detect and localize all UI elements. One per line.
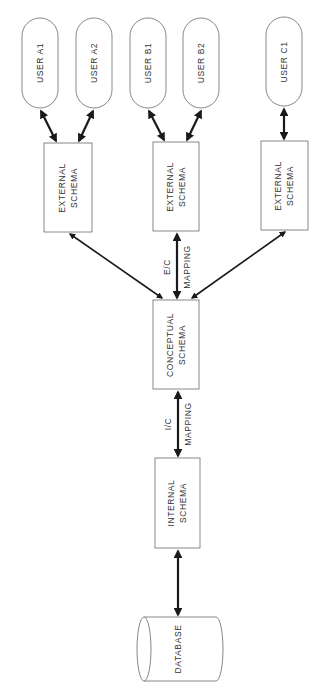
external-schema-c-line1: EXTERNAL: [273, 161, 283, 211]
architecture-diagram: USER A1 USER A2 USER B1 USER B2 USER C1 …: [0, 0, 321, 695]
arrow-ext-c-conceptual: [192, 232, 285, 298]
conceptual-schema-line1: CONCEPTUAL: [165, 313, 175, 377]
ec-mapping-line1: E/C: [162, 259, 172, 275]
user-a1: USER A1: [22, 18, 58, 108]
user-a1-label: USER A1: [35, 43, 45, 83]
ic-mapping-line1: I/C: [163, 418, 173, 431]
arrow-ext-a-conceptual: [70, 234, 162, 298]
ec-mapping-line2: MAPPING: [182, 245, 192, 288]
external-schema-b: EXTERNAL SCHEMA: [153, 142, 199, 231]
internal-schema-line2: SCHEMA: [178, 483, 188, 523]
arrow-a2-ext: [79, 111, 93, 141]
conceptual-schema-line2: SCHEMA: [177, 325, 187, 365]
user-c1: USER C1: [266, 17, 302, 106]
arrow-b1-ext: [149, 111, 164, 140]
user-b1-label: USER B1: [143, 43, 153, 84]
ic-mapping-line2: MAPPING: [183, 402, 193, 445]
external-schema-a-line2: SCHEMA: [69, 168, 79, 208]
external-schema-b-line2: SCHEMA: [177, 167, 187, 207]
user-b2-label: USER B2: [196, 43, 206, 84]
external-schema-b-line1: EXTERNAL: [165, 162, 175, 212]
arrow-b2-ext: [187, 111, 201, 140]
user-b1: USER B1: [130, 18, 166, 108]
external-schema-a-line1: EXTERNAL: [57, 163, 67, 213]
internal-schema: INTERNAL SCHEMA: [155, 458, 200, 548]
user-a2-label: USER A2: [89, 43, 99, 83]
external-schema-c: EXTERNAL SCHEMA: [261, 141, 308, 230]
user-a2: USER A2: [76, 18, 112, 108]
user-c1-label: USER C1: [279, 41, 289, 82]
internal-schema-line1: INTERNAL: [166, 480, 176, 527]
user-external-arrows: [41, 109, 284, 141]
database-cylinder: DATABASE: [137, 617, 223, 681]
database-label: DATABASE: [173, 625, 183, 674]
external-schema-c-line2: SCHEMA: [285, 166, 295, 206]
arrow-a1-ext: [41, 111, 56, 141]
user-b2: USER B2: [183, 18, 219, 108]
conceptual-schema: CONCEPTUAL SCHEMA: [153, 300, 199, 389]
external-schema-a: EXTERNAL SCHEMA: [44, 143, 92, 232]
